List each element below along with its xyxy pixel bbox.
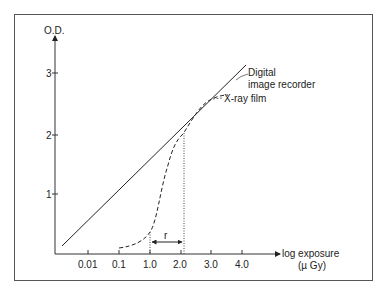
- legend-xray-film: X-ray film: [224, 93, 266, 104]
- y-axis-label: O.D.: [44, 25, 65, 36]
- series-xray-film: [119, 95, 228, 248]
- y-tick-1: 1: [46, 189, 52, 200]
- legend-digital-line2: image recorder: [248, 79, 315, 90]
- x-axis-unit: (µ Gy): [298, 260, 326, 271]
- x-tick-2.0: 2.0: [173, 259, 187, 270]
- y-tick-3: 3: [46, 68, 52, 79]
- x-axis-label: log exposure: [282, 248, 339, 259]
- x-tick-1.0: 1.0: [143, 259, 157, 270]
- x-tick-3.0: 3.0: [204, 259, 218, 270]
- y-tick-2: 2: [46, 130, 52, 141]
- x-tick-4.0: 4.0: [235, 259, 249, 270]
- range-label-r: r: [164, 230, 167, 241]
- series-digital-recorder: [62, 65, 246, 246]
- legend-digital-line1: Digital: [248, 67, 276, 78]
- x-tick-0.01: 0.01: [78, 259, 97, 270]
- x-tick-0.1: 0.1: [112, 259, 126, 270]
